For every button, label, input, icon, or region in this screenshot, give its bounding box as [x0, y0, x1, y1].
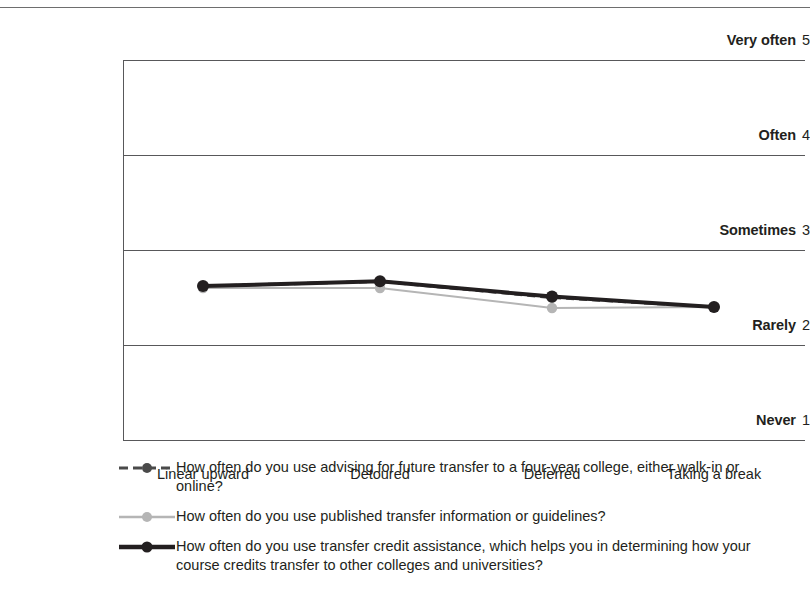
legend-label-credit-assistance: How often do you use transfer credit ass… [176, 537, 786, 575]
line-chart: Very often5 Often4 Sometimes3 Rarely2 Ne… [0, 20, 810, 430]
data-point [197, 280, 209, 292]
chart-page: Very often5 Often4 Sometimes3 Rarely2 Ne… [0, 0, 810, 603]
legend-label-advising: How often do you use advising for future… [176, 458, 786, 496]
plot-area: Linear upward Detoured Deferred Taking a… [123, 40, 805, 420]
legend-swatch-dashed-icon [118, 459, 176, 477]
data-point [708, 301, 720, 313]
legend-swatch-black-icon [118, 538, 176, 556]
data-point [374, 275, 386, 287]
series-line-2 [203, 281, 714, 307]
legend-item-published-info: How often do you use published transfer … [118, 507, 808, 526]
legend-label-published-info: How often do you use published transfer … [176, 507, 606, 526]
data-point [546, 291, 558, 303]
data-point [547, 303, 557, 313]
legend-item-advising: How often do you use advising for future… [118, 458, 808, 496]
legend-swatch-gray-icon [118, 508, 176, 526]
series-line-1 [203, 288, 714, 308]
chart-legend: How often do you use advising for future… [118, 458, 808, 586]
top-divider [0, 7, 810, 8]
legend-item-credit-assistance: How often do you use transfer credit ass… [118, 537, 808, 575]
series-lines [123, 40, 805, 460]
